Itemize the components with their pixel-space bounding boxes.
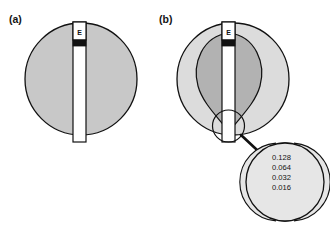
panel-a-applicator: E	[73, 22, 86, 142]
iso-label-1: 0.064	[272, 163, 291, 172]
panel-a-label: (a)	[9, 13, 22, 25]
panel-b-label: (b)	[159, 13, 172, 25]
panel-b-applicator: E	[222, 22, 235, 142]
iso-label-3: 0.016	[272, 183, 291, 192]
iso-label-2: 0.032	[272, 173, 291, 182]
figure-root: (a) E (b) E	[0, 0, 330, 230]
applicator-letter-a: E	[77, 29, 82, 36]
panel-a: (a) E	[9, 13, 137, 142]
iso-label-0: 0.128	[272, 153, 291, 162]
figure-canvas: (a) E (b) E	[0, 0, 330, 230]
panel-b: (b) E	[159, 13, 289, 163]
detail-magnified-view: 0.128 0.064 0.032 0.016	[240, 143, 330, 221]
applicator-letter-b: E	[226, 29, 231, 36]
applicator-marker-band	[222, 40, 235, 46]
applicator-marker-band	[73, 40, 86, 46]
